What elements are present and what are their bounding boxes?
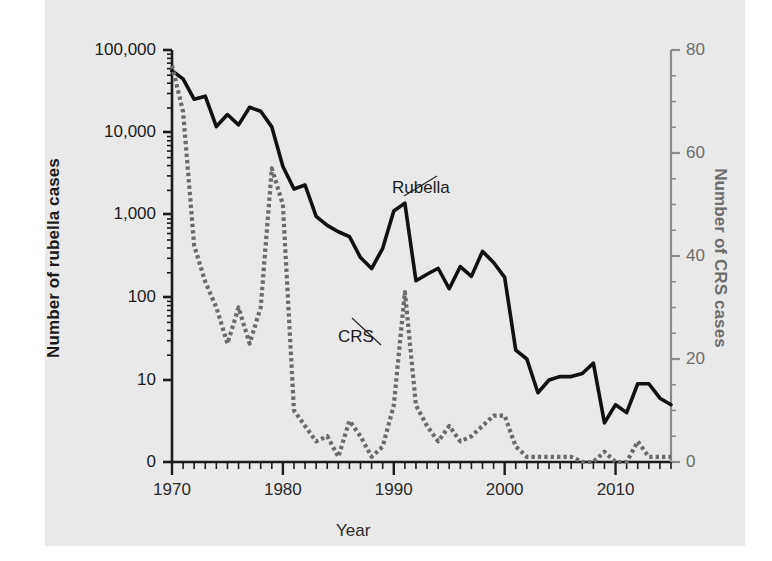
x-tick-1990: 1990: [375, 480, 413, 500]
right-tick-80: 80: [686, 40, 705, 60]
left-axis-title: Number of rubella cases: [44, 108, 64, 408]
x-tick-2000: 2000: [486, 480, 524, 500]
series-label-rubella: Rubella: [392, 178, 450, 198]
right-tick-20: 20: [686, 349, 705, 369]
left-tick-1000: 1,000: [0, 204, 156, 224]
right-tick-60: 60: [686, 143, 705, 163]
right-tick-40: 40: [686, 246, 705, 266]
left-tick-100: 100: [0, 287, 156, 307]
left-tick-10000: 10,000: [0, 122, 156, 142]
series-line-rubella: [172, 71, 671, 423]
x-axis-title: Year: [336, 521, 370, 541]
x-tick-1980: 1980: [264, 480, 302, 500]
series-line-crs: [172, 65, 671, 462]
left-tick-0: 0: [0, 452, 156, 472]
right-tick-0: 0: [686, 452, 695, 472]
left-tick-10: 10: [0, 370, 156, 390]
figure-root: Number of rubella cases Number of CRS ca…: [0, 0, 772, 561]
left-tick-100000: 100,000: [0, 40, 156, 60]
series-label-crs: CRS: [338, 327, 374, 347]
x-tick-2010: 2010: [597, 480, 635, 500]
x-tick-1970: 1970: [153, 480, 191, 500]
right-axis-title: Number of CRS cases: [710, 108, 730, 408]
chart-canvas: [0, 0, 772, 561]
series-group: [172, 65, 671, 462]
